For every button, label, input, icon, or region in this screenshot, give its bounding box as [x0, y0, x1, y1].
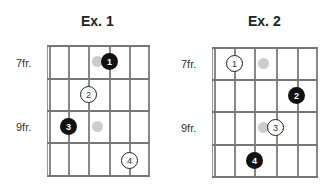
diagram-1-fretboard: 1 2 3 4	[47, 45, 150, 177]
fret-line	[47, 175, 150, 177]
finger-dot-4: 4	[246, 152, 263, 169]
ghost-dot	[92, 121, 103, 132]
finger-dot-2: 2	[288, 87, 305, 104]
finger-dot-4: 4	[121, 152, 138, 169]
finger-dot-2: 2	[80, 86, 97, 103]
fret-line	[212, 47, 318, 49]
finger-dot-3: 3	[60, 118, 77, 135]
diagram-2-fret-label-9: 9fr.	[181, 122, 196, 134]
finger-dot-1: 1	[101, 53, 118, 70]
fret-line	[47, 110, 150, 112]
fret-line	[212, 144, 318, 146]
fret-line	[212, 79, 318, 81]
ghost-dot	[258, 58, 269, 69]
diagram-1-title: Ex. 1	[81, 13, 114, 29]
finger-dot-3: 3	[267, 119, 284, 136]
diagram-2-fretboard: 1 2 3 4	[212, 47, 318, 178]
diagram-2-fret-label-7: 7fr.	[181, 58, 196, 70]
fret-line	[47, 142, 150, 144]
diagram-1-fret-label-9: 9fr.	[16, 121, 31, 133]
finger-dot-1: 1	[226, 55, 243, 72]
fret-line	[47, 45, 150, 47]
fret-line	[212, 111, 318, 113]
fret-line	[212, 176, 318, 178]
diagram-2-title: Ex. 2	[248, 13, 281, 29]
fret-line	[47, 78, 150, 80]
diagram-1-fret-label-7: 7fr.	[16, 57, 31, 69]
